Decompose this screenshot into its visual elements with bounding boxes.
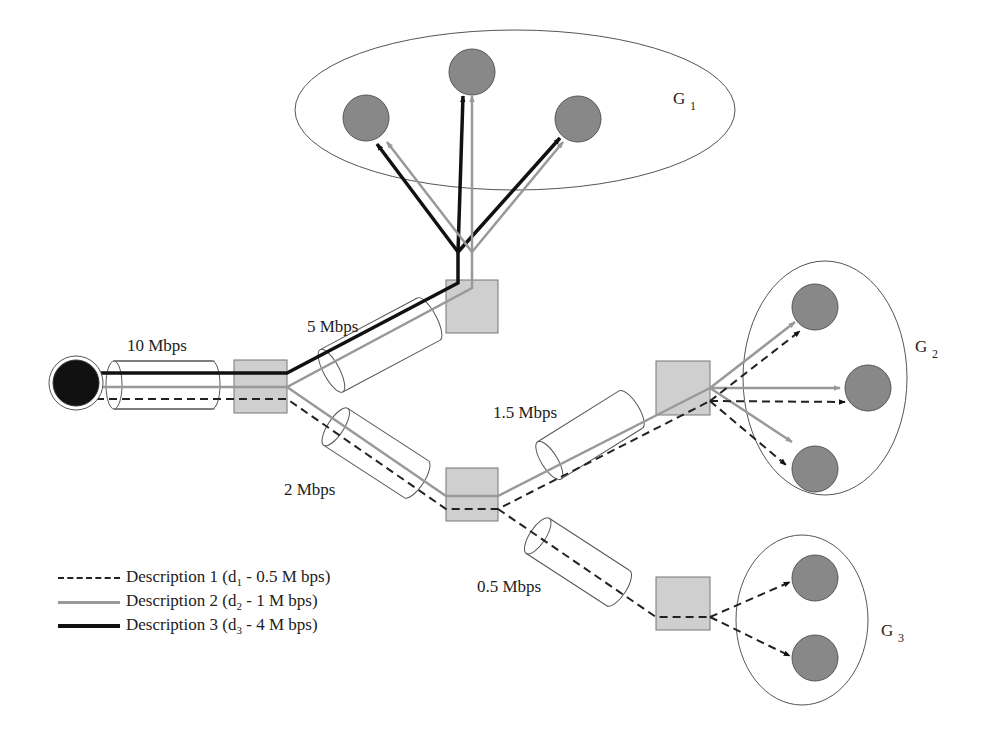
svg-text:G: G [881,621,893,640]
receiver-g2-top [792,284,838,330]
receiver-g3-top [792,555,838,601]
legend-item-description-2: Description 2 (d2 - 1 M bps) [58,590,398,614]
link-label-0-5mbps: 0.5 Mbps [477,577,541,596]
router-mid [446,468,498,521]
legend: Description 1 (d1 - 0.5 M bps) Descripti… [58,566,398,638]
svg-text:G: G [673,89,685,108]
group-label-g3: G 3 [881,621,904,645]
group-label-g2: G 2 [915,337,938,361]
link-label-10mbps: 10 Mbps [127,336,187,355]
receiver-g1-right [555,96,601,142]
link-pipe-10mbps [106,361,220,409]
group-label-g1: G 1 [673,89,696,113]
router-g3 [656,577,710,630]
receiver-g1-left [343,95,389,141]
svg-text:3: 3 [898,631,904,645]
dashed-line-icon [58,577,120,579]
link-label-1-5mbps: 1.5 Mbps [493,403,557,422]
legend-item-description-1: Description 1 (d1 - 0.5 M bps) [58,566,398,590]
svg-text:2: 2 [932,347,938,361]
receiver-g1-center [449,49,495,95]
source-node [49,356,103,410]
gray-line-icon [58,601,120,604]
svg-text:1: 1 [690,99,696,113]
receiver-g2-bottom [792,446,838,492]
router-g2 [656,361,710,415]
link-label-5mbps: 5 Mbps [307,317,358,336]
receiver-g3-bottom [792,635,838,681]
link-label-2mbps: 2 Mbps [284,480,335,499]
svg-text:G: G [915,337,927,356]
link-pipe-5mbps [313,294,447,396]
black-line-icon [58,624,120,628]
legend-item-description-3: Description 3 (d3 - 4 M bps) [58,614,398,638]
receiver-g2-middle [845,365,891,411]
